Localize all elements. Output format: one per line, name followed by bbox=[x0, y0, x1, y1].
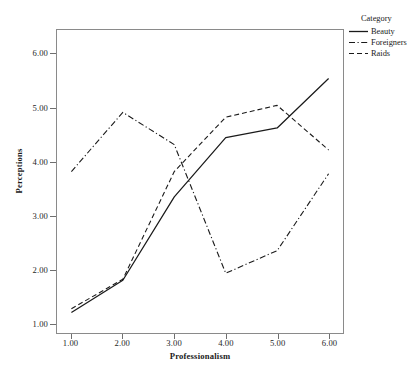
x-tick-label: 1.00 bbox=[63, 338, 78, 348]
legend-items: BeautyForeignersRaids bbox=[349, 26, 417, 59]
legend: Category BeautyForeignersRaids bbox=[349, 14, 417, 59]
plot-area bbox=[56, 29, 344, 334]
y-axis-title: Perceptions bbox=[14, 131, 24, 211]
data-lines-svg bbox=[57, 30, 343, 333]
legend-title: Category bbox=[361, 14, 417, 23]
series-line-raids bbox=[71, 105, 328, 308]
legend-label: Raids bbox=[371, 49, 390, 59]
legend-item-foreigners[interactable]: Foreigners bbox=[349, 37, 417, 48]
chart-figure: 1.002.003.004.005.006.00 1.002.003.004.0… bbox=[0, 0, 417, 377]
x-tick-label: 3.00 bbox=[166, 338, 181, 348]
legend-item-raids[interactable]: Raids bbox=[349, 48, 417, 59]
legend-swatch-raids-icon bbox=[349, 49, 368, 58]
y-tick-label: 6.00 bbox=[33, 48, 48, 58]
y-tick-label: 5.00 bbox=[33, 103, 48, 113]
y-tick-label: 1.00 bbox=[33, 319, 48, 329]
x-tick-label: 2.00 bbox=[115, 338, 130, 348]
x-tick-label: 5.00 bbox=[270, 338, 285, 348]
y-tick-label: 2.00 bbox=[33, 265, 48, 275]
y-tick-label: 4.00 bbox=[33, 157, 48, 167]
x-tick-label: 4.00 bbox=[218, 338, 233, 348]
legend-label: Beauty bbox=[371, 27, 395, 37]
y-tick-label: 3.00 bbox=[33, 211, 48, 221]
legend-label: Foreigners bbox=[371, 38, 407, 48]
y-axis-tick-labels: 1.002.003.004.005.006.00 bbox=[0, 0, 48, 377]
legend-swatch-foreigners-icon bbox=[349, 38, 368, 47]
series-line-foreigners bbox=[71, 112, 328, 273]
series-line-beauty bbox=[71, 78, 328, 312]
legend-swatch-beauty-icon bbox=[349, 27, 368, 36]
x-tick-label: 6.00 bbox=[322, 338, 337, 348]
legend-item-beauty[interactable]: Beauty bbox=[349, 26, 417, 37]
x-axis-title: Professionalism bbox=[56, 351, 344, 361]
